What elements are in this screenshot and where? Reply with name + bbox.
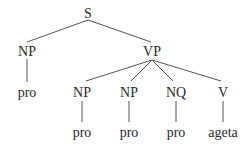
leaf-pro-subject: pro [18, 85, 37, 100]
edge-s-vp [88, 20, 151, 42]
node-vp: VP [143, 44, 161, 59]
leaf-pro-1: pro [73, 125, 92, 140]
node-np-1: NP [73, 85, 91, 100]
node-s: S [84, 6, 92, 21]
leaf-pro-2: pro [120, 125, 139, 140]
syntax-tree: S NP VP pro NP NP NQ V pro pro pro ageta [0, 0, 249, 147]
node-np-2: NP [120, 85, 138, 100]
node-v: V [218, 85, 228, 100]
edge-s-np [27, 20, 88, 42]
node-np-subject: NP [18, 44, 36, 59]
leaf-verb-ageta: ageta [208, 125, 238, 140]
node-nq: NQ [166, 85, 186, 100]
leaf-pro-3: pro [167, 125, 186, 140]
